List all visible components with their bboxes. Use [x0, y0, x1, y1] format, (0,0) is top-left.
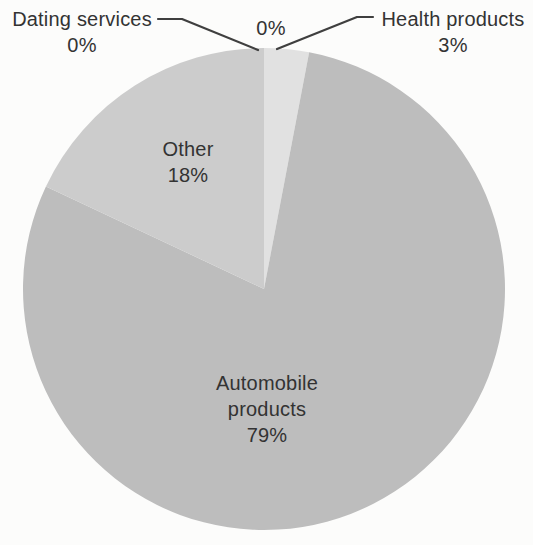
pie-svg — [0, 0, 533, 545]
automobile-products-label-name: Automobile products — [216, 372, 318, 420]
health-products-label: Health products 3% — [376, 6, 530, 58]
other-label-pct: 18% — [136, 162, 240, 188]
top-zero-percent-label: 0% — [247, 15, 295, 41]
dating-services-label-name: Dating services — [12, 8, 152, 30]
pie-slices — [23, 48, 505, 530]
health-products-label-name: Health products — [381, 8, 524, 30]
automobile-products-label: Automobile products 79% — [187, 370, 347, 448]
automobile-products-label-pct: 79% — [187, 422, 347, 448]
other-label-name: Other — [162, 138, 213, 160]
dating-services-label-pct: 0% — [6, 32, 158, 58]
dating-services-leader-line — [158, 19, 258, 50]
top-zero-percent-label-pct: 0% — [256, 17, 285, 39]
other-label: Other 18% — [136, 136, 240, 188]
dating-services-label: Dating services 0% — [6, 6, 158, 58]
pie-chart-figure: Dating services 0% 0% Health products 3%… — [0, 0, 533, 545]
health-products-label-pct: 3% — [376, 32, 530, 58]
